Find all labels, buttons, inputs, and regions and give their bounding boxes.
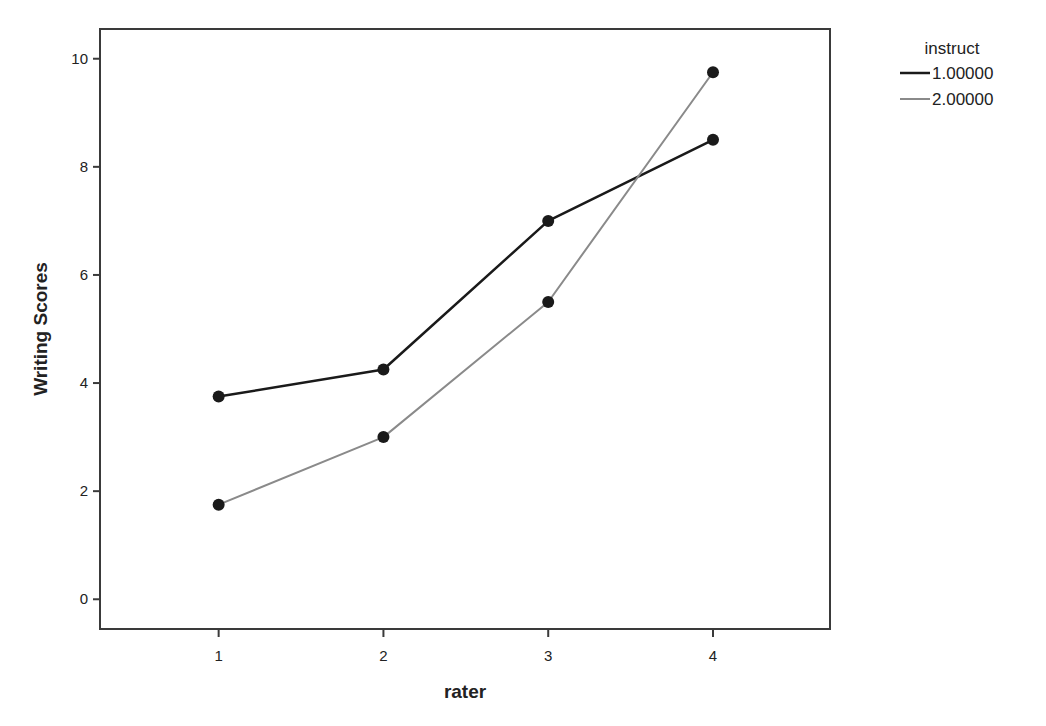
legend-label: 1.00000 bbox=[932, 64, 993, 83]
x-tick-label: 2 bbox=[379, 647, 387, 664]
data-point-marker bbox=[707, 66, 719, 78]
x-tick-label: 3 bbox=[544, 647, 552, 664]
data-point-marker bbox=[213, 499, 225, 511]
data-point-marker bbox=[377, 364, 389, 376]
legend-label: 2.00000 bbox=[932, 90, 993, 109]
y-tick-label: 2 bbox=[80, 482, 88, 499]
plot-frame bbox=[100, 29, 830, 629]
y-tick-label: 6 bbox=[80, 266, 88, 283]
x-tick-label: 4 bbox=[709, 647, 717, 664]
data-point-marker bbox=[542, 296, 554, 308]
y-axis: 0246810 bbox=[71, 50, 100, 608]
data-point-marker bbox=[213, 391, 225, 403]
legend-item: 1.00000 bbox=[900, 64, 993, 83]
line-chart: 0246810 1234 Writing Scores rater instru… bbox=[0, 0, 1046, 726]
y-tick-label: 0 bbox=[80, 590, 88, 607]
legend-title: instruct bbox=[925, 39, 980, 58]
x-axis: 1234 bbox=[214, 629, 717, 664]
y-axis-title: Writing Scores bbox=[30, 262, 51, 396]
data-point-marker bbox=[377, 431, 389, 443]
x-tick-label: 1 bbox=[214, 647, 222, 664]
legend-item: 2.00000 bbox=[900, 90, 993, 109]
y-tick-label: 4 bbox=[80, 374, 88, 391]
data-point-marker bbox=[707, 134, 719, 146]
y-tick-label: 8 bbox=[80, 158, 88, 175]
legend: instruct 1.000002.00000 bbox=[900, 39, 993, 109]
y-tick-label: 10 bbox=[71, 50, 88, 67]
x-axis-title: rater bbox=[444, 681, 487, 702]
data-point-marker bbox=[542, 215, 554, 227]
